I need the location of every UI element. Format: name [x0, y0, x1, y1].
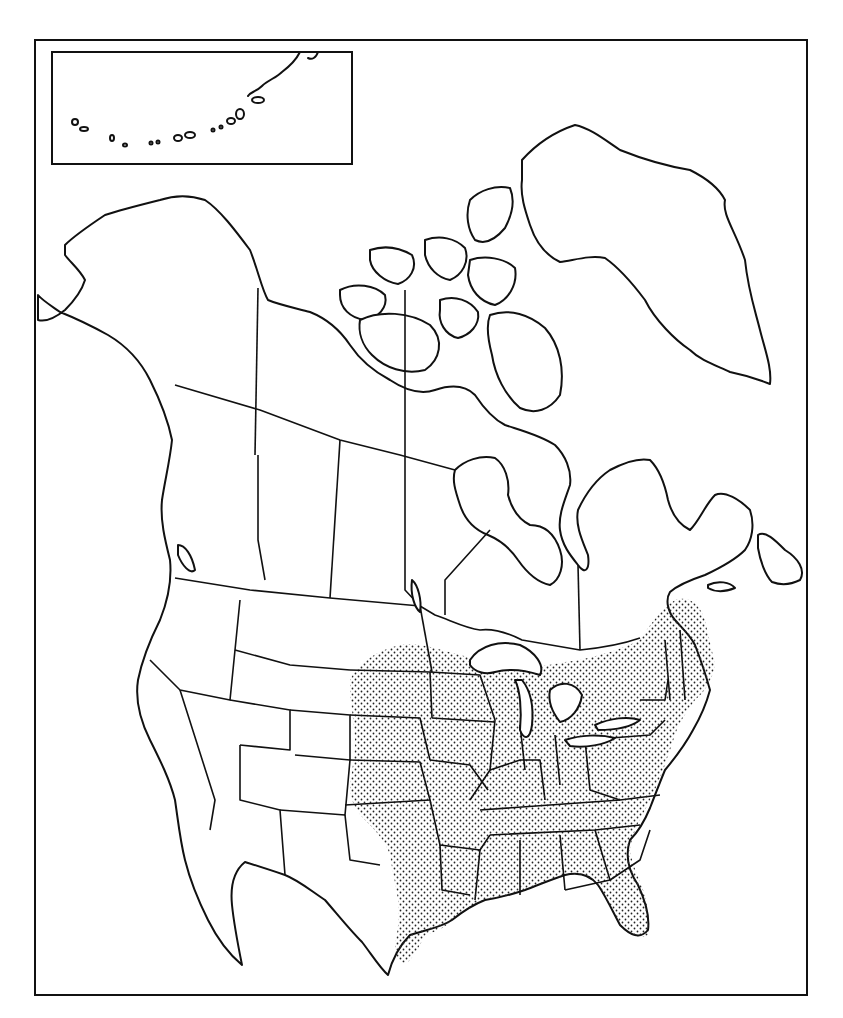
range-map: [0, 0, 843, 1018]
aleutian-inset: [52, 52, 352, 164]
newfoundland: [758, 534, 802, 584]
greenland: [522, 125, 771, 384]
